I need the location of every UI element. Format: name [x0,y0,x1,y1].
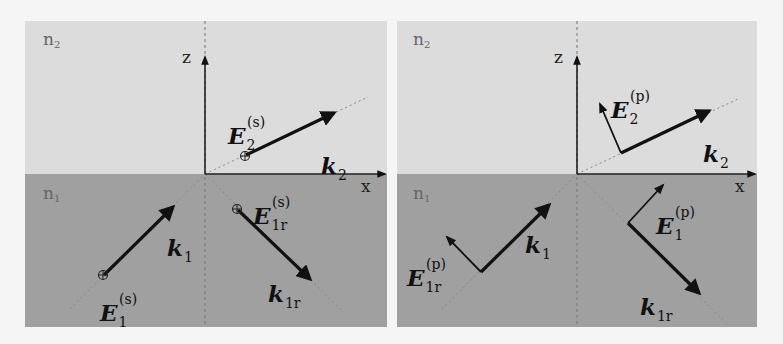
z-axis-label: z [554,49,563,66]
x-axis-label: x [361,178,371,195]
E1p-label: E1(p) [656,214,683,237]
E1r-label: E1r(s) [253,204,287,227]
s-polarization-panel: n2 n1 z x E2(s) k2 k1 E1(s) E1r(s) k1r [25,21,387,327]
k2-label: k2 [703,142,729,165]
E1-into-page-icon [99,271,108,280]
p-polarization-diagram [397,21,757,327]
medium-n2-label: n2 [413,31,430,50]
k1r-label: k1r [640,295,673,318]
E1r-label: E1r(p) [407,266,441,289]
E1r-into-page-icon [233,205,242,214]
medium-n1-label: n1 [413,185,430,204]
k1-label: k1 [525,233,551,256]
medium-n2-label: n2 [43,31,60,50]
E1-label: E1(s) [100,301,127,324]
E2p-label: E2(p) [611,98,638,121]
x-axis-label: x [735,178,745,195]
k1-label: k1 [167,236,193,259]
z-axis-label: z [182,49,191,66]
k2-label: k2 [321,154,347,177]
E2-label: E2(s) [228,124,255,147]
k1r-label: k1r [268,282,301,305]
p-polarization-panel: n2 n1 z x E2(p) k2 k1 E1r(p) E1(p) k1r [397,21,757,327]
medium-n1-label: n1 [43,185,60,204]
medium-n1-region [25,174,387,327]
